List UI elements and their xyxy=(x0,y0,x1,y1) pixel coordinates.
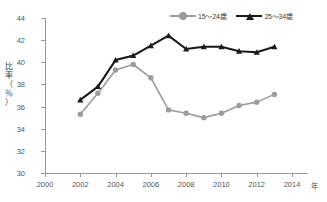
data-point-circle-marker xyxy=(78,112,83,117)
series-line-1 xyxy=(80,36,274,100)
x-axis-tick-mark xyxy=(186,173,187,177)
data-point-circle-marker xyxy=(95,91,100,96)
data-point-circle-marker xyxy=(254,99,259,104)
y-axis-title-char-1: 率 xyxy=(2,71,16,80)
y-axis-title-char-3: ％ xyxy=(2,89,16,98)
x-axis-tick-mark xyxy=(45,173,46,177)
y-axis-tick-label: 36 xyxy=(9,102,25,111)
y-axis-tick-label: 44 xyxy=(9,14,25,23)
data-point-circle-marker xyxy=(272,92,277,97)
data-point-circle-marker xyxy=(219,111,224,116)
x-axis-tick-mark xyxy=(151,173,152,177)
y-axis-tick-label: 42 xyxy=(9,36,25,45)
data-point-circle-marker xyxy=(236,103,241,108)
plot-area xyxy=(45,18,300,173)
y-axis-tick-label: 30 xyxy=(9,169,25,178)
x-axis-tick-mark xyxy=(257,173,258,177)
y-axis-tick-label: 34 xyxy=(9,124,25,133)
data-point-circle-marker xyxy=(113,67,118,72)
x-axis-tick-mark xyxy=(116,173,117,177)
x-axis-tick-label: 2008 xyxy=(178,180,195,189)
data-point-circle-marker xyxy=(131,62,136,67)
x-axis-tick-mark xyxy=(80,173,81,177)
x-axis-tick-label: 2004 xyxy=(107,180,124,189)
x-axis-tick-mark xyxy=(292,173,293,177)
series-line-0 xyxy=(80,65,274,118)
y-axis-tick-label: 32 xyxy=(9,146,25,155)
data-point-circle-marker xyxy=(166,107,171,112)
x-axis-title: 年 xyxy=(311,180,318,191)
x-axis-tick-label: 2006 xyxy=(143,180,160,189)
x-axis-tick-mark xyxy=(221,173,222,177)
x-axis-tick-label: 2014 xyxy=(284,180,301,189)
series-lines-svg xyxy=(45,18,300,173)
x-axis-tick-label: 2012 xyxy=(248,180,265,189)
x-axis-line xyxy=(45,173,308,174)
chart-container: 15～24歳 25～34歳 比 率 （ ％ ） 3032343638404244… xyxy=(0,0,327,202)
data-point-triangle-marker xyxy=(165,33,171,39)
x-axis-tick-label: 2000 xyxy=(37,180,54,189)
y-axis-tick-label: 38 xyxy=(9,80,25,89)
x-axis-tick-label: 2002 xyxy=(72,180,89,189)
data-point-circle-marker xyxy=(148,75,153,80)
data-point-circle-marker xyxy=(201,115,206,120)
data-point-circle-marker xyxy=(183,111,188,116)
x-axis-tick-label: 2010 xyxy=(213,180,230,189)
y-axis-tick-label: 40 xyxy=(9,58,25,67)
